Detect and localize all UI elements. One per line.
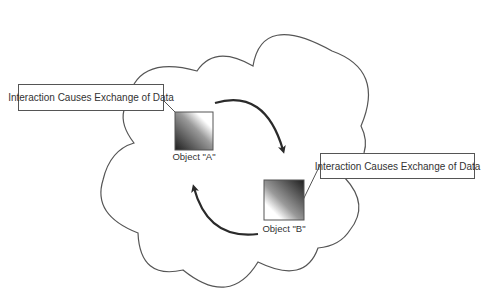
object-a-label: Object "A" bbox=[168, 151, 220, 162]
object-b-label: Object "B" bbox=[258, 223, 310, 234]
arrow-a-to-b bbox=[215, 100, 283, 150]
callout-a-text: Interaction Causes Exchange of Data bbox=[8, 92, 174, 103]
arrow-b-to-a bbox=[194, 188, 258, 235]
diagram-canvas: Interaction Causes Exchange of Data Inte… bbox=[0, 0, 485, 307]
object-a-square bbox=[175, 112, 213, 150]
callout-b: Interaction Causes Exchange of Data bbox=[320, 153, 475, 179]
callout-a: Interaction Causes Exchange of Data bbox=[18, 84, 164, 111]
callout-b-text: Interaction Causes Exchange of Data bbox=[315, 161, 481, 172]
object-b-square bbox=[264, 180, 304, 220]
